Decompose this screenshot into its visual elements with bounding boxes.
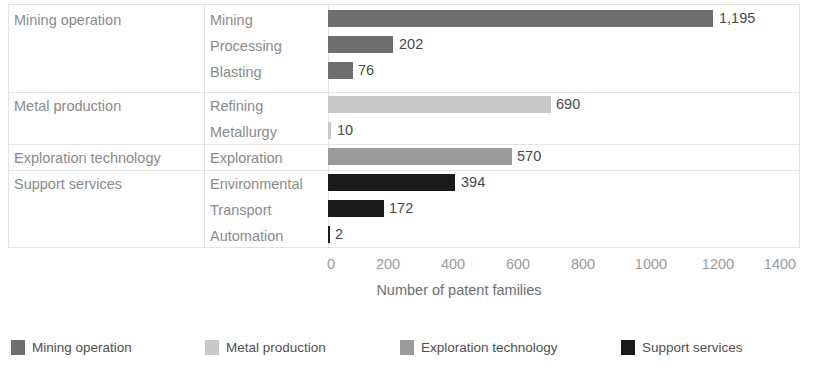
bar-processing [328,36,393,53]
bar-transport [328,200,384,217]
bar-value-transport: 172 [389,200,413,216]
group-separator-1 [8,92,800,93]
x-tick-1000: 1000 [635,256,667,272]
legend-item-metal-production[interactable]: Metal production [205,336,326,358]
bar-blasting [328,62,353,79]
x-tick-800: 800 [571,256,595,272]
subcategory-label-environmental: Environmental [210,176,303,192]
bar-refining [328,96,551,113]
group-label-mining-operation: Mining operation [14,12,121,28]
table-border-right [799,4,800,247]
subcategory-label-transport: Transport [210,202,272,218]
bar-environmental [328,174,455,191]
legend-swatch-icon-exploration-technology [400,340,414,355]
legend-item-support-services[interactable]: Support services [621,336,743,358]
x-tick-0: 0 [327,256,335,272]
bar-value-refining: 690 [556,96,580,112]
x-tick-1200: 1200 [702,256,734,272]
group-label-exploration-technology: Exploration technology [14,150,161,166]
legend-label-metal-production: Metal production [226,340,326,355]
chart-table: Mining operation Metal production Explor… [8,4,800,248]
bar-automation [328,226,330,243]
legend-label-mining-operation: Mining operation [32,340,132,355]
x-axis: 0 200 400 600 800 1000 1200 1400 Number … [8,248,800,304]
bar-metallurgy [328,122,331,139]
subcategory-label-blasting: Blasting [210,64,262,80]
group-separator-3 [8,170,800,171]
bar-mining [328,10,713,27]
x-tick-400: 400 [441,256,465,272]
bar-exploration [328,148,512,165]
subcategory-label-refining: Refining [210,98,263,114]
group-label-metal-production: Metal production [14,98,121,114]
legend-item-exploration-technology[interactable]: Exploration technology [400,336,558,358]
subcategory-label-automation: Automation [210,228,283,244]
table-border-top [8,4,800,5]
bar-value-mining: 1,195 [719,10,755,26]
subcategory-label-metallurgy: Metallurgy [210,124,277,140]
bar-value-metallurgy: 10 [337,122,353,138]
legend-label-support-services: Support services [642,340,743,355]
bar-value-processing: 202 [399,36,423,52]
legend-label-exploration-technology: Exploration technology [421,340,558,355]
x-tick-200: 200 [376,256,400,272]
table-border-left [8,4,9,247]
chart-legend: Mining operation Metal production Explor… [0,336,814,360]
column-divider-groups [204,4,205,247]
subcategory-label-mining: Mining [210,12,253,28]
x-tick-600: 600 [506,256,530,272]
bar-value-environmental: 394 [461,174,485,190]
legend-swatch-icon-support-services [621,340,635,355]
bar-value-automation: 2 [335,226,343,242]
group-label-support-services: Support services [14,176,122,192]
legend-swatch-icon-metal-production [205,340,219,355]
x-axis-title: Number of patent families [8,282,800,298]
legend-item-mining-operation[interactable]: Mining operation [11,336,132,358]
subcategory-label-processing: Processing [210,38,282,54]
group-separator-2 [8,144,800,145]
x-tick-1400: 1400 [764,256,796,272]
bar-value-blasting: 76 [358,62,374,78]
bar-value-exploration: 570 [517,148,541,164]
subcategory-label-exploration: Exploration [210,150,283,166]
legend-swatch-icon-mining-operation [11,340,25,355]
